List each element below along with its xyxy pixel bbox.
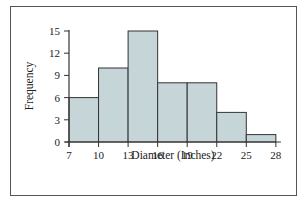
histogram-bar [187, 83, 217, 142]
histogram-bar [99, 68, 129, 142]
histogram-chart: 710131619222528 03691215 Diameter (Inche… [0, 0, 300, 201]
histogram-bar [128, 31, 158, 142]
x-tick-label: 28 [270, 149, 282, 161]
x-tick-label: 25 [241, 149, 253, 161]
bars-group [69, 31, 276, 142]
histogram-bar [158, 83, 188, 142]
y-axis-ticks: 03691215 [49, 25, 69, 148]
x-axis-label: Diameter (Inches) [131, 149, 215, 162]
y-tick-label: 3 [55, 114, 61, 126]
histogram-bar [246, 135, 276, 142]
y-tick-label: 12 [49, 47, 60, 59]
histogram-bar [69, 98, 99, 142]
y-tick-label: 15 [49, 25, 61, 37]
x-tick-label: 10 [93, 149, 105, 161]
histogram-bar [217, 112, 247, 142]
y-tick-label: 0 [55, 136, 61, 148]
y-tick-label: 9 [55, 69, 61, 81]
x-tick-label: 7 [66, 149, 72, 161]
y-axis-label: Frequency [23, 61, 36, 110]
y-tick-label: 6 [55, 92, 61, 104]
